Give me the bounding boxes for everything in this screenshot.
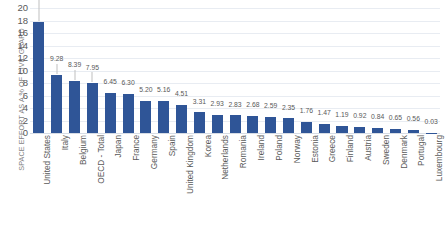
bar-value-label: 5.16 [157,87,170,94]
y-axis-tick-label: 20 [17,3,28,13]
y-axis-tick-label: 0 [23,128,28,138]
bar-value-label: 0.84 [371,114,384,121]
bar-value-label: 2.83 [228,102,241,109]
bar[interactable] [247,116,258,133]
bar-slot[interactable]: 7.95 [83,8,101,133]
x-axis-slot: France [119,135,137,247]
bar-slot[interactable]: 2.83 [226,8,244,133]
x-axis-slot: Poland [262,135,280,247]
x-axis-slot: Netherlands [208,135,226,247]
bar-slot[interactable]: 6.30 [119,8,137,133]
gridline [30,133,440,134]
label-leader-line [38,0,39,21]
x-axis-slot: Portugal [404,135,422,247]
x-axis-slot: Austria [351,135,369,247]
bar[interactable] [265,117,276,133]
bar-value-label: 3.31 [193,99,206,106]
x-axis-slot: Norway [280,135,298,247]
bar-value-label: 4.51 [175,91,188,98]
bar-value-label: 2.68 [246,102,259,109]
bar[interactable] [87,83,98,133]
bar-slot[interactable]: 6.45 [101,8,119,133]
bar[interactable] [33,22,44,133]
x-axis-slot: Germany [137,135,155,247]
y-axis-tick-label: 12 [17,53,28,63]
bar-slot[interactable]: 0.92 [351,8,369,133]
bar-value-label: 1.76 [300,108,313,115]
x-axis-slot: Belgium [66,135,84,247]
bar-value-label: 7.95 [86,65,99,72]
bar[interactable] [69,81,80,133]
bar-value-label: 2.93 [211,101,224,108]
bar-slot[interactable]: 1.76 [297,8,315,133]
bar-slot[interactable]: 1.19 [333,8,351,133]
x-axis-tick-labels: United StatesItalyBelgiumOECD - TotalJap… [30,135,440,247]
bar-value-label: 0.56 [407,116,420,123]
bar-slot[interactable]: 17.72 [30,8,48,133]
x-axis-slot: Italy [48,135,66,247]
bar[interactable] [390,129,401,133]
x-axis-slot: Japan [101,135,119,247]
bar[interactable] [354,127,365,133]
bar-slot[interactable]: 2.93 [208,8,226,133]
x-axis-slot: Korea [190,135,208,247]
bar-value-label: 6.45 [104,79,117,86]
y-axis-tick-label: 2 [23,116,28,126]
bar-value-label: 6.30 [121,80,134,87]
bar[interactable] [372,128,383,133]
bar-chart: SPACE EFFORT AS A % OF CIVIL GBARD 20181… [0,0,448,249]
bar[interactable] [336,126,347,133]
y-axis-tick-label: 18 [17,16,28,26]
bar[interactable] [194,112,205,133]
bar-value-label: 2.59 [264,103,277,110]
bar[interactable] [176,105,187,133]
y-axis-tick-labels: 20181614121086420 [8,8,28,133]
bar[interactable] [123,94,134,133]
bar[interactable] [408,130,419,134]
x-axis-slot: OECD - Total [83,135,101,247]
bar-slot[interactable]: 1.47 [315,8,333,133]
bar[interactable] [301,122,312,133]
bar-value-label: 9.28 [50,56,63,63]
x-axis-slot: Estonia [297,135,315,247]
bar[interactable] [51,75,62,133]
bar-slot[interactable]: 0.84 [369,8,387,133]
bar[interactable] [319,124,330,133]
x-axis-slot: Finland [333,135,351,247]
y-axis-tick-label: 8 [23,78,28,88]
x-axis-slot: Romania [226,135,244,247]
bar-series: 17.729.288.397.956.456.305.205.164.513.3… [30,8,440,133]
plot-area: 20181614121086420 17.729.288.397.956.456… [30,8,440,133]
x-axis-tick-label: Luxembourg [435,135,443,181]
bar-slot[interactable]: 9.28 [48,8,66,133]
bar-slot[interactable]: 0.03 [422,8,440,133]
bar-slot[interactable]: 5.20 [137,8,155,133]
bar[interactable] [283,118,294,133]
bar[interactable] [230,115,241,133]
bar[interactable] [158,101,169,133]
bar-slot[interactable]: 0.65 [387,8,405,133]
bar-slot[interactable]: 2.68 [244,8,262,133]
bar-slot[interactable]: 3.31 [190,8,208,133]
x-axis-slot: Denmark [387,135,405,247]
bar-slot[interactable]: 5.16 [155,8,173,133]
y-axis-tick-label: 10 [17,66,28,76]
y-axis-tick-label: 6 [23,91,28,101]
x-axis-slot: Sweden [369,135,387,247]
x-axis-slot: United Kingdom [173,135,191,247]
bar[interactable] [140,101,151,134]
bar-value-label: 5.20 [139,87,152,94]
label-leader-line [92,72,93,82]
bar-slot[interactable]: 2.59 [262,8,280,133]
x-axis-slot: Spain [155,135,173,247]
bar-slot[interactable]: 4.51 [173,8,191,133]
x-axis-slot: Greece [315,135,333,247]
bar-value-label: 1.47 [318,110,331,117]
bar-slot[interactable]: 0.56 [404,8,422,133]
bar[interactable] [105,93,116,133]
y-axis-tick-label: 14 [17,41,28,51]
bar-slot[interactable]: 2.35 [280,8,298,133]
bar[interactable] [212,115,223,133]
y-axis-tick-label: 4 [23,103,28,113]
bar-slot[interactable]: 8.39 [66,8,84,133]
